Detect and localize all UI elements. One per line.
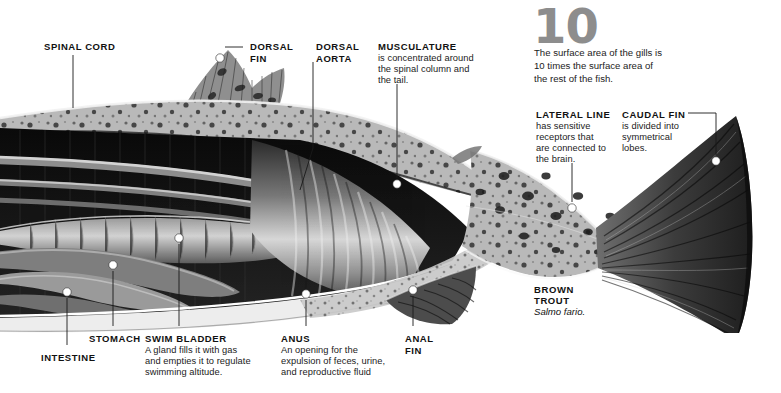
fact-number: 10	[533, 4, 598, 48]
callout-heading-spinal-cord: SPINAL CORD	[44, 41, 115, 53]
callout-heading-dorsal-fin: DORSAL FIN	[250, 41, 293, 64]
callout-lateral-line: LATERAL LINEhas sensitive receptors that…	[536, 109, 628, 165]
callout-body-swim-bladder: A gland fills it with gas and empties it…	[145, 345, 295, 379]
callout-stomach: STOMACH	[89, 333, 141, 345]
callout-heading-dorsal-aorta: DORSAL AORTA	[316, 41, 359, 64]
callout-heading-stomach: STOMACH	[89, 333, 141, 345]
callout-caudal-fin: CAUDAL FINis divided into symmetrical lo…	[622, 109, 714, 154]
callout-spinal-cord: SPINAL CORD	[44, 41, 115, 53]
callout-heading-caudal-fin: CAUDAL FIN	[622, 109, 714, 121]
callout-anal-fin: ANAL FIN	[405, 333, 434, 356]
callout-heading-anal-fin: ANAL FIN	[405, 333, 434, 356]
anatomy-figure: SPINAL CORDDORSAL FINDORSAL AORTAMUSCULA…	[0, 0, 781, 393]
specimen-caption: BROWN TROUT Salmo fario.	[534, 284, 585, 318]
specimen-common-name: BROWN TROUT	[534, 284, 585, 306]
callout-dorsal-aorta: DORSAL AORTA	[316, 41, 359, 64]
callout-body-musculature: is concentrated around the spinal column…	[378, 53, 498, 87]
specimen-scientific-name: Salmo fario.	[534, 306, 585, 318]
callout-intestine: INTESTINE	[41, 352, 96, 364]
callout-body-caudal-fin: is divided into symmetrical lobes.	[622, 121, 714, 155]
callout-heading-swim-bladder: SWIM BLADDER	[145, 333, 295, 345]
fact-text: The surface area of the gills is 10 time…	[534, 46, 749, 86]
callout-heading-lateral-line: LATERAL LINE	[536, 109, 628, 121]
callout-dorsal-fin: DORSAL FIN	[250, 41, 293, 64]
callout-heading-musculature: MUSCULATURE	[378, 41, 498, 53]
callout-body-lateral-line: has sensitive receptors that are connect…	[536, 121, 628, 166]
callout-swim-bladder: SWIM BLADDERA gland fills it with gas an…	[145, 333, 295, 378]
callout-musculature: MUSCULATUREis concentrated around the sp…	[378, 41, 498, 86]
callout-heading-intestine: INTESTINE	[41, 352, 96, 364]
